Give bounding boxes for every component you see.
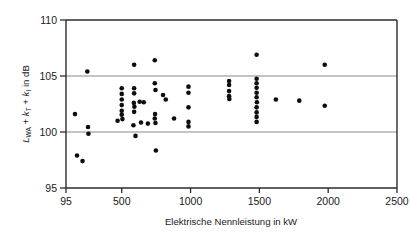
chart-svg: 95100105110 955001000150020002500 Elektr… [0, 0, 411, 236]
y-tick-label-100: 100 [39, 126, 57, 138]
y-axis-unit-tail: in dB [20, 65, 31, 90]
data-point [139, 120, 144, 125]
data-point [152, 116, 157, 121]
data-point [119, 108, 124, 113]
data-point [120, 117, 125, 122]
scatter-chart-figure: 95100105110 955001000150020002500 Elektr… [0, 0, 411, 236]
data-point [227, 89, 232, 94]
data-point [119, 112, 124, 117]
data-point [186, 91, 191, 96]
data-point [152, 58, 157, 63]
data-point [141, 100, 146, 105]
x-tick-label-2500: 2500 [385, 195, 409, 207]
data-point [186, 105, 191, 110]
y-axis-plus-2: + [20, 96, 31, 107]
data-point [227, 97, 232, 102]
x-tick-label-95: 95 [60, 195, 72, 207]
data-point [186, 124, 191, 129]
svg-text:LWA + kT + kI in dB: LWA + kT + kI in dB [20, 65, 32, 143]
data-point [132, 63, 137, 68]
y-tick-label-110: 110 [40, 14, 57, 26]
data-point [227, 79, 232, 84]
data-point [85, 69, 90, 74]
data-point [254, 77, 259, 82]
data-point [297, 98, 302, 103]
data-point [254, 115, 259, 120]
data-point [254, 110, 259, 115]
y-axis-title: LWA + kT + kI in dB [20, 65, 32, 143]
data-point [137, 99, 142, 104]
data-point [115, 119, 120, 124]
y-axis-ticks: 95100105110 [39, 14, 66, 194]
data-point [132, 101, 137, 106]
data-point [119, 97, 124, 102]
data-point [86, 131, 91, 136]
data-point [172, 116, 177, 121]
data-point [86, 125, 91, 130]
data-point [186, 120, 191, 125]
data-point [227, 83, 232, 88]
data-point [186, 84, 191, 89]
data-point [153, 112, 158, 117]
data-point [274, 97, 279, 102]
data-point [132, 105, 137, 110]
data-point [163, 97, 168, 102]
data-point [254, 105, 259, 110]
data-point [73, 112, 78, 117]
data-point [254, 85, 259, 90]
data-point [132, 86, 137, 91]
x-tick-label-1000: 1000 [179, 195, 203, 207]
data-point [80, 159, 85, 164]
y-axis-plus-1: + [20, 116, 31, 127]
data-point [152, 81, 157, 86]
data-point [322, 103, 327, 108]
y-tick-label-95: 95 [45, 182, 57, 194]
x-axis-ticks: 955001000150020002500 [60, 188, 409, 207]
plot-area-background [66, 20, 397, 188]
data-point [254, 95, 259, 100]
x-tick-label-1500: 1500 [248, 195, 272, 207]
data-point [75, 153, 80, 158]
data-point [146, 121, 151, 126]
x-axis-title: Elektrische Nennleistung in kW [165, 216, 298, 227]
data-point [254, 91, 259, 96]
data-point [119, 103, 124, 108]
data-point [119, 86, 124, 91]
x-tick-label-2000: 2000 [317, 195, 341, 207]
data-point [322, 63, 327, 68]
data-point [153, 121, 158, 126]
data-point [132, 91, 137, 96]
data-point [254, 52, 259, 57]
data-point [254, 81, 259, 86]
data-point [119, 92, 124, 97]
data-point [254, 120, 259, 125]
data-point [154, 148, 159, 153]
data-point [153, 88, 158, 93]
data-point [161, 93, 166, 98]
data-point [133, 134, 138, 139]
y-axis-subscript-WA: WA [25, 126, 32, 137]
x-tick-label-500: 500 [113, 195, 131, 207]
data-point [132, 110, 137, 115]
y-tick-label-105: 105 [39, 70, 57, 82]
data-point [255, 100, 260, 105]
data-point [131, 123, 136, 128]
